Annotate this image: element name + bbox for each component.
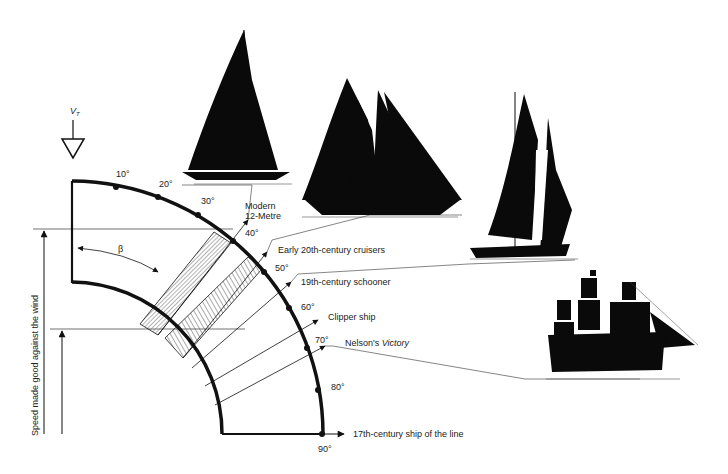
y-axis-label: Speed made good against the wind: [30, 295, 40, 436]
label-cruisers: Early 20th-century cruisers: [278, 245, 386, 255]
tick-label-20: 20°: [159, 179, 173, 189]
true-wind-indicator: VT: [62, 106, 84, 158]
modern-12-metre-silhouette-icon: [182, 30, 292, 184]
leader-12-metre: [182, 185, 252, 220]
tick-label-10: 10°: [116, 169, 130, 179]
label-ship-of-the-line: 17th-century ship of the line: [353, 429, 464, 439]
label-schooner: 19th-century schooner: [301, 277, 391, 287]
wind-triangle-icon: [62, 139, 84, 158]
sailing-performance-diagram: Speed made good against the wind VT β 10…: [0, 0, 728, 474]
beta-angle-label: β: [118, 244, 123, 254]
tick-label-60: 60°: [301, 302, 315, 312]
tick-label-80: 80°: [331, 382, 345, 392]
wind-label: VT: [70, 106, 81, 117]
tick-label-50: 50°: [275, 263, 289, 273]
label-victory: Nelson's Victory: [345, 338, 410, 348]
tick-label-90: 90°: [318, 444, 332, 454]
label-modern-line1: Modern: [245, 201, 276, 211]
label-clipper: Clipper ship: [328, 312, 376, 322]
nelsons-victory-silhouette-icon: [546, 270, 698, 379]
early-20th-century-cruiser-silhouette-icon: [302, 78, 462, 217]
tick-label-40: 40°: [245, 228, 259, 238]
tick-label-70: 70°: [315, 335, 329, 345]
label-modern-line2: 12-Metre: [245, 211, 281, 221]
19th-century-schooner-silhouette-icon: [470, 92, 578, 259]
tick-label-30: 30°: [201, 196, 215, 206]
